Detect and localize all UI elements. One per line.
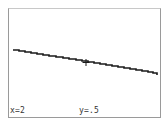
x-coordinate-readout: x=2 bbox=[10, 106, 25, 116]
trace-cursor-icon bbox=[83, 59, 90, 66]
y-coordinate-readout: y=.5 bbox=[79, 106, 99, 116]
